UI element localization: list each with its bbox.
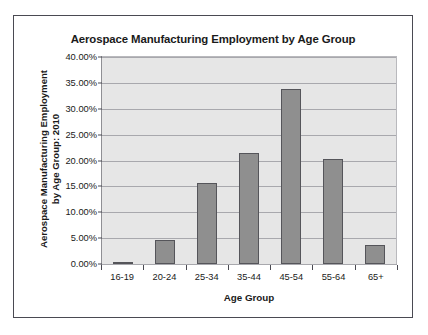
x-tick-label-25-34: 25-34: [186, 272, 228, 282]
bar-65+[interactable]: [365, 245, 385, 264]
y-tick-label: 30.00%: [65, 104, 97, 114]
bar-25-34[interactable]: [197, 183, 217, 264]
bar-35-44[interactable]: [239, 153, 259, 264]
bar-55-64[interactable]: [323, 159, 343, 264]
bar-slot: [270, 57, 312, 264]
x-tick-mark: [270, 265, 271, 270]
y-axis-title-line-1: Aerospace Manufacturing Employment: [38, 70, 51, 248]
bar-16-19[interactable]: [113, 262, 133, 264]
x-tick-mark: [101, 265, 102, 270]
x-tick-mark: [186, 265, 187, 270]
x-axis-ticks: [101, 265, 397, 270]
x-tick-mark: [143, 265, 144, 270]
x-tick-label-45-54: 45-54: [270, 272, 312, 282]
bars-layer: [102, 57, 396, 264]
y-tick-label: 40.00%: [65, 52, 97, 62]
bar-slot: [354, 57, 396, 264]
x-axis-title: Age Group: [101, 292, 397, 303]
y-tick-label: 35.00%: [65, 78, 97, 88]
x-tick-label-35-44: 35-44: [228, 272, 270, 282]
x-tick-label-16-19: 16-19: [101, 272, 143, 282]
y-tick-label: 10.00%: [65, 207, 97, 217]
x-tick-label-65+: 65+: [355, 272, 397, 282]
bar-slot: [144, 57, 186, 264]
bar-slot: [186, 57, 228, 264]
bar-slot: [102, 57, 144, 264]
chart-title: Aerospace Manufacturing Employment by Ag…: [14, 33, 412, 45]
x-axis-tick-labels: 16-1920-2425-3435-4445-5455-6465+: [101, 272, 397, 282]
y-axis-title: Aerospace Manufacturing Employment by Ag…: [35, 59, 65, 259]
bar-slot: [228, 57, 270, 264]
x-tick-label-55-64: 55-64: [312, 272, 354, 282]
y-tick-label: 15.00%: [65, 181, 97, 191]
plot-area: 0.00%5.00%10.00%15.00%20.00%25.00%30.00%…: [101, 56, 397, 265]
x-tick-label-20-24: 20-24: [143, 272, 185, 282]
x-tick-mark: [312, 265, 313, 270]
x-tick-mark: [228, 265, 229, 270]
x-tick-mark: [397, 265, 398, 270]
y-axis-title-line-2: by Age Group: 2010: [50, 114, 63, 204]
y-tick-label: 5.00%: [71, 233, 97, 243]
y-tick-label: 25.00%: [65, 130, 97, 140]
bar-20-24[interactable]: [155, 240, 175, 264]
bar-slot: [312, 57, 354, 264]
x-tick-mark: [355, 265, 356, 270]
y-tick-label: 0.00%: [71, 259, 97, 269]
chart-frame: Aerospace Manufacturing Employment by Ag…: [13, 15, 413, 318]
bar-45-54[interactable]: [281, 89, 301, 264]
y-tick-label: 20.00%: [65, 156, 97, 166]
